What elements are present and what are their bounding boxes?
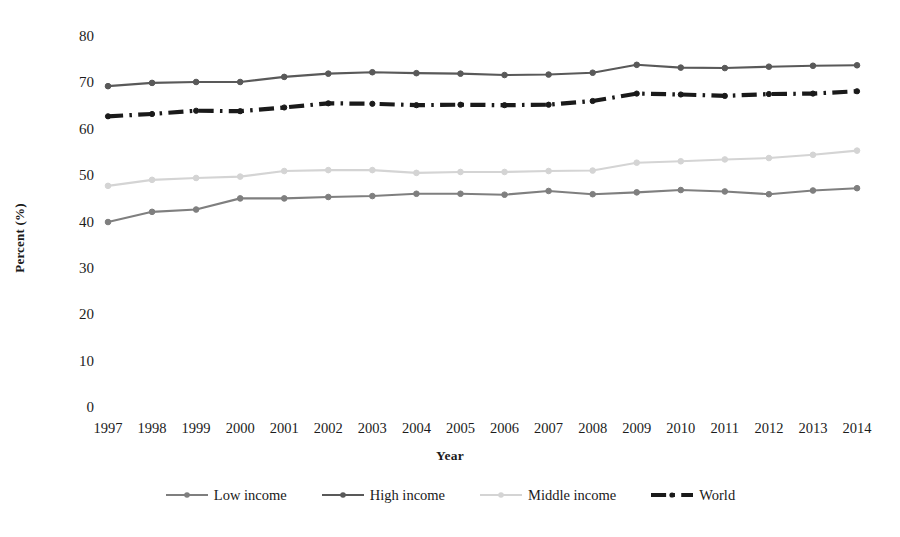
x-axis-tick-labels: 1997199819992000200120022003200420052006… bbox=[0, 419, 900, 441]
data-point bbox=[722, 65, 728, 71]
data-point bbox=[854, 89, 859, 94]
data-point bbox=[281, 168, 287, 174]
data-point bbox=[458, 169, 464, 175]
legend-item-world[interactable]: World bbox=[650, 487, 735, 503]
data-point bbox=[590, 98, 595, 103]
series-line bbox=[108, 91, 857, 116]
data-point bbox=[590, 70, 596, 76]
data-point bbox=[722, 93, 727, 98]
data-point bbox=[326, 167, 332, 173]
legend-label: Middle income bbox=[528, 487, 616, 503]
data-point bbox=[502, 103, 507, 108]
data-point bbox=[281, 196, 287, 202]
legend-item-low-income[interactable]: Low income bbox=[165, 487, 287, 503]
x-axis-title: Year bbox=[0, 448, 900, 464]
data-point bbox=[634, 62, 640, 68]
data-point bbox=[810, 188, 816, 194]
x-tick-label: 2014 bbox=[831, 419, 883, 437]
data-point bbox=[502, 192, 508, 198]
data-point bbox=[678, 158, 684, 164]
data-point bbox=[766, 64, 772, 70]
data-point bbox=[766, 155, 772, 161]
data-point bbox=[634, 160, 640, 166]
data-point bbox=[854, 185, 860, 191]
data-point bbox=[458, 71, 464, 77]
series-line bbox=[108, 151, 857, 186]
data-point bbox=[414, 70, 420, 76]
series-line bbox=[108, 188, 857, 222]
data-point bbox=[766, 191, 772, 197]
data-point bbox=[193, 175, 199, 181]
data-point bbox=[546, 168, 552, 174]
data-point bbox=[370, 193, 376, 199]
data-point bbox=[193, 79, 199, 85]
data-point bbox=[722, 157, 728, 163]
data-point bbox=[502, 169, 508, 175]
data-point bbox=[634, 190, 640, 196]
data-point bbox=[237, 79, 243, 85]
data-point bbox=[678, 92, 683, 97]
legend-line-icon bbox=[321, 488, 365, 502]
data-point bbox=[766, 91, 771, 96]
data-point bbox=[149, 80, 155, 86]
data-point bbox=[193, 207, 199, 213]
data-point bbox=[810, 63, 816, 69]
chart-legend: Low incomeHigh incomeMiddle incomeWorld bbox=[0, 487, 900, 503]
data-point bbox=[458, 102, 463, 107]
series-world bbox=[105, 89, 859, 119]
data-point bbox=[149, 111, 154, 116]
data-point bbox=[149, 177, 155, 183]
data-point bbox=[149, 209, 155, 215]
data-point bbox=[546, 72, 552, 78]
legend-label: High income bbox=[370, 487, 445, 503]
data-point bbox=[546, 188, 552, 194]
data-point bbox=[237, 196, 243, 202]
data-point bbox=[105, 83, 111, 89]
legend-item-high-income[interactable]: High income bbox=[321, 487, 445, 503]
data-point bbox=[414, 170, 420, 176]
data-point bbox=[502, 72, 508, 78]
series-high-income bbox=[105, 62, 860, 89]
data-point bbox=[238, 109, 243, 114]
data-point bbox=[678, 187, 684, 193]
series-line bbox=[108, 65, 857, 86]
legend-label: World bbox=[699, 487, 735, 503]
data-point bbox=[237, 174, 243, 180]
data-point bbox=[326, 194, 332, 200]
data-point bbox=[105, 219, 111, 225]
data-point bbox=[590, 191, 596, 197]
series-low-income bbox=[105, 185, 860, 224]
data-point bbox=[370, 101, 375, 106]
legend-line-icon bbox=[650, 488, 694, 502]
data-point bbox=[546, 102, 551, 107]
data-point bbox=[194, 108, 199, 113]
data-point bbox=[370, 69, 376, 75]
data-point bbox=[722, 189, 728, 195]
data-point bbox=[458, 191, 464, 197]
legend-line-icon bbox=[479, 488, 523, 502]
data-point bbox=[854, 148, 860, 154]
data-point bbox=[810, 91, 815, 96]
data-point bbox=[370, 167, 376, 173]
data-point bbox=[105, 114, 110, 119]
data-point bbox=[634, 91, 639, 96]
data-point bbox=[854, 62, 860, 68]
data-point bbox=[810, 152, 816, 158]
line-chart: Percent (%) 80706050403020100 1997199819… bbox=[0, 0, 900, 537]
data-point bbox=[326, 101, 331, 106]
legend-item-middle-income[interactable]: Middle income bbox=[479, 487, 616, 503]
data-point bbox=[105, 183, 111, 189]
legend-line-icon bbox=[165, 488, 209, 502]
data-point bbox=[414, 103, 419, 108]
data-point bbox=[414, 191, 420, 197]
data-point bbox=[678, 65, 684, 71]
series-middle-income bbox=[105, 148, 860, 189]
data-point bbox=[281, 74, 287, 80]
legend-label: Low income bbox=[214, 487, 287, 503]
data-point bbox=[282, 105, 287, 110]
data-point bbox=[326, 71, 332, 77]
data-point bbox=[590, 168, 596, 174]
